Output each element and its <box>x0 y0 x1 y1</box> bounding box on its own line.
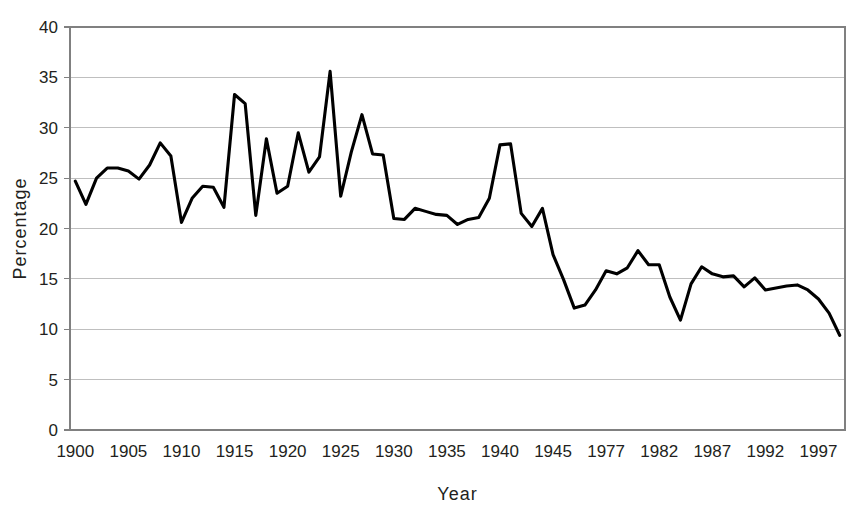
y-axis-tick-label: 25 <box>39 169 58 188</box>
x-axis-tick-label: 1987 <box>693 442 731 461</box>
y-axis-tickmarks <box>64 27 70 430</box>
x-axis-tick-label: 1945 <box>534 442 572 461</box>
x-axis-title: Year <box>437 484 477 504</box>
x-axis-tick-label: 1997 <box>800 442 838 461</box>
y-axis-tick-label: 35 <box>39 68 58 87</box>
gridlines <box>70 77 845 379</box>
y-axis-tick-label: 30 <box>39 119 58 138</box>
x-axis-tick-label: 1900 <box>56 442 94 461</box>
y-axis-tick-label: 5 <box>49 371 58 390</box>
x-axis-tick-label: 1920 <box>269 442 307 461</box>
y-axis-tick-label: 15 <box>39 270 58 289</box>
y-axis-tick-label: 40 <box>39 18 58 37</box>
data-series-line <box>75 71 839 335</box>
x-axis-tick-label: 1982 <box>640 442 678 461</box>
x-axis-tick-label: 1930 <box>375 442 413 461</box>
chart-container: 0510152025303540 19001905191019151920192… <box>0 0 867 520</box>
y-axis-tick-label: 0 <box>49 421 58 440</box>
x-axis-tick-labels: 1900190519101915192019251930193519401945… <box>56 442 837 461</box>
x-axis-tick-label: 1935 <box>428 442 466 461</box>
x-axis-tick-label: 1992 <box>746 442 784 461</box>
x-axis-tick-label: 1925 <box>322 442 360 461</box>
x-axis-tick-label: 1910 <box>163 442 201 461</box>
x-axis-tick-label: 1915 <box>216 442 254 461</box>
x-axis-tick-label: 1940 <box>481 442 519 461</box>
y-axis-tick-label: 20 <box>39 220 58 239</box>
x-axis-tick-label: 1977 <box>587 442 625 461</box>
y-axis-tick-label: 10 <box>39 320 58 339</box>
x-axis-tick-label: 1905 <box>109 442 147 461</box>
y-axis-title: Percentage <box>10 177 30 279</box>
line-chart: 0510152025303540 19001905191019151920192… <box>0 0 867 520</box>
y-axis-tick-labels: 0510152025303540 <box>39 18 58 440</box>
